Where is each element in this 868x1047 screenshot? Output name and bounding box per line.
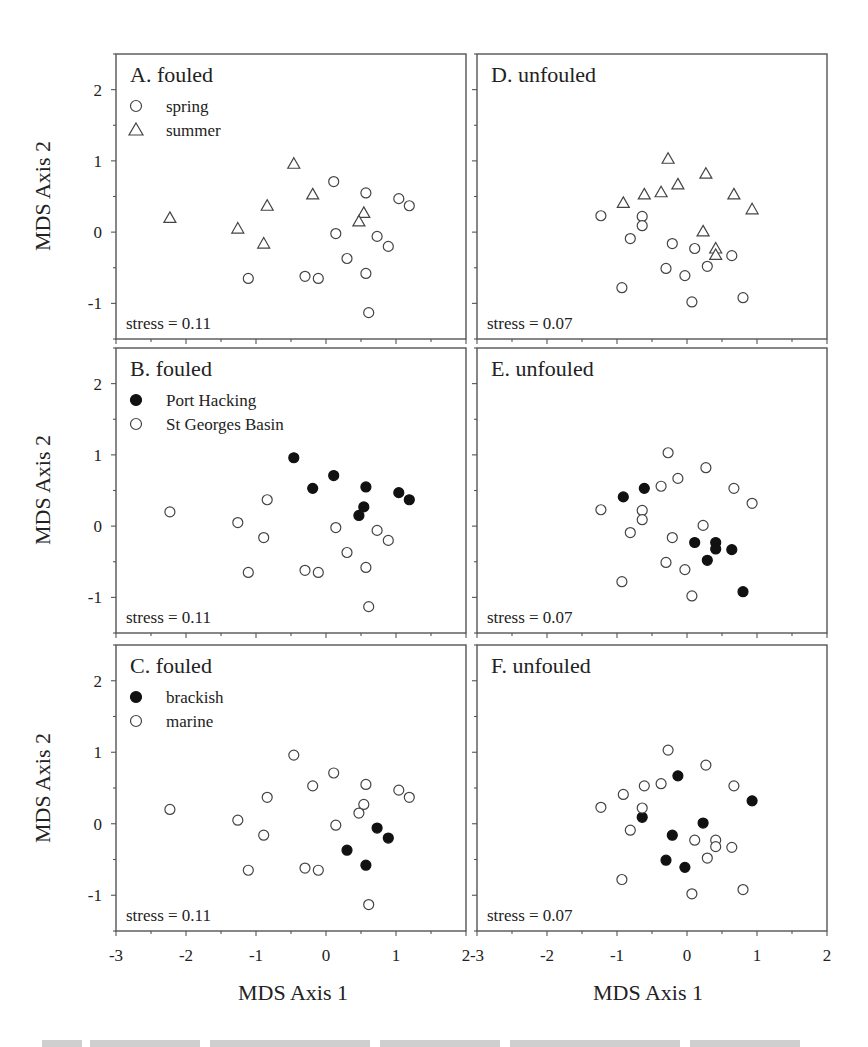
data-point-filled [639, 483, 649, 493]
data-point-open [747, 498, 757, 508]
data-points [596, 745, 757, 899]
panel-title: D. unfouled [491, 62, 596, 87]
panel-frame [477, 54, 827, 339]
data-point-open [680, 565, 690, 575]
data-point-open [372, 231, 382, 241]
data-point-triangle [672, 178, 684, 189]
data-point-filled [361, 860, 371, 870]
y-tick-label: 1 [94, 743, 103, 762]
y-tick-label: 0 [94, 223, 103, 242]
data-point-open [300, 271, 310, 281]
legend-item: marine [131, 712, 214, 731]
panel-ticks [111, 54, 466, 344]
data-point-filled [404, 495, 414, 505]
open-circle-marker-icon [131, 101, 142, 112]
data-point-filled [354, 510, 364, 520]
y-axis-title-row-c: MDS Axis 2 [30, 733, 55, 843]
data-point-filled [727, 545, 737, 555]
data-point-filled [637, 812, 647, 822]
x-tick-label: 1 [392, 946, 401, 965]
data-point-filled [680, 862, 690, 872]
data-point-open [259, 830, 269, 840]
legend-label: summer [166, 121, 221, 140]
legend-label: spring [166, 97, 209, 116]
data-point-open [687, 591, 697, 601]
data-point-open [701, 760, 711, 770]
y-axis-title-row-b: MDS Axis 2 [30, 435, 55, 545]
panel-ticks [111, 348, 466, 638]
data-point-triangle [232, 223, 244, 234]
open-circle-marker-icon [131, 419, 142, 430]
data-point-open [300, 863, 310, 873]
data-point-filled [372, 823, 382, 833]
panel-title: C. fouled [130, 653, 212, 678]
data-point-open [331, 229, 341, 239]
data-point-open [729, 781, 739, 791]
data-point-triangle [697, 225, 709, 236]
data-point-open [596, 802, 606, 812]
data-point-open [259, 533, 269, 543]
data-point-open [394, 785, 404, 795]
data-point-open [663, 448, 673, 458]
data-point-open [617, 875, 627, 885]
data-points [596, 153, 758, 307]
data-point-open [637, 221, 647, 231]
y-tick-label: 1 [94, 152, 103, 171]
data-point-open [729, 483, 739, 493]
data-point-open [680, 271, 690, 281]
panel-c: C. fouledbrackishmarinestress = 0.11-101… [88, 645, 470, 965]
data-point-open [404, 201, 414, 211]
y-tick-label: -1 [88, 294, 102, 313]
data-point-open [342, 547, 352, 557]
data-point-open [637, 505, 647, 515]
data-point-open [383, 535, 393, 545]
data-point-open [372, 525, 382, 535]
data-point-open [364, 900, 374, 910]
data-point-triangle [662, 153, 674, 164]
y-axis-title-row-a: MDS Axis 2 [30, 141, 55, 251]
data-point-triangle [307, 188, 319, 199]
data-point-filled [618, 492, 628, 502]
data-point-open [702, 261, 712, 271]
data-point-open [661, 263, 671, 273]
data-point-triangle [261, 200, 273, 211]
panel-title: B. fouled [130, 356, 212, 381]
panel-ticks [472, 348, 827, 638]
y-tick-label: -1 [88, 588, 102, 607]
data-point-filled [690, 538, 700, 548]
data-point-filled [329, 471, 339, 481]
data-point-filled [702, 555, 712, 565]
stress-value: stress = 0.07 [487, 314, 573, 333]
data-point-open [687, 889, 697, 899]
data-point-open [637, 515, 647, 525]
data-point-open [361, 562, 371, 572]
data-points [165, 453, 414, 612]
y-tick-label: 2 [94, 81, 103, 100]
panel-title: E. unfouled [491, 356, 594, 381]
data-point-triangle [700, 168, 712, 179]
data-point-open [331, 523, 341, 533]
data-point-filled [361, 482, 371, 492]
data-point-open [394, 194, 404, 204]
data-point-filled [308, 483, 318, 493]
legend-item: summer [129, 121, 221, 140]
y-tick-label: -1 [88, 886, 102, 905]
data-point-open [727, 251, 737, 261]
data-point-open [331, 820, 341, 830]
legend-item: brackish [131, 688, 225, 707]
stress-value: stress = 0.11 [126, 906, 211, 925]
data-point-open [617, 283, 627, 293]
stress-value: stress = 0.07 [487, 608, 573, 627]
data-points [164, 158, 414, 318]
legend-label: marine [166, 712, 213, 731]
data-point-open [243, 273, 253, 283]
data-point-open [625, 234, 635, 244]
data-point-open [364, 308, 374, 318]
stress-value: stress = 0.07 [487, 906, 573, 925]
data-point-open [663, 745, 673, 755]
data-point-open [243, 567, 253, 577]
data-point-open [738, 293, 748, 303]
data-point-triangle [638, 188, 650, 199]
data-point-filled [394, 488, 404, 498]
data-point-open [165, 507, 175, 517]
